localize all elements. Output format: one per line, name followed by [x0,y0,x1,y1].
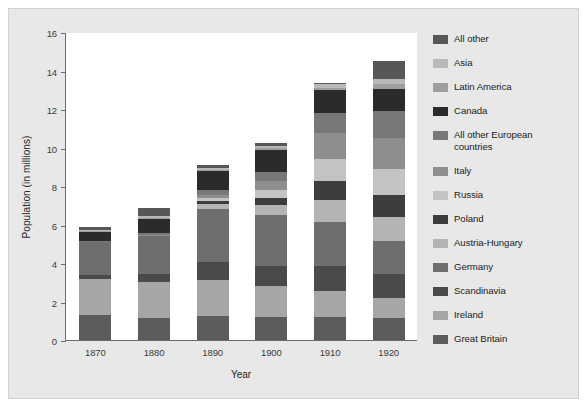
legend-swatch-icon [433,311,448,320]
bar-segment [373,111,405,137]
legend-item[interactable]: Ireland [433,309,573,321]
bar-segment [79,232,111,241]
y-axis-tick-label: 12 [47,105,57,116]
legend-label: All other [454,33,489,45]
legend-item[interactable]: All other European countries [433,129,573,152]
legend-item[interactable]: Asia [433,57,573,69]
plot-area: 0246810121416187018801890190019101920 [65,33,417,341]
x-axis-label: Year [65,369,417,380]
legend-label: Great Britain [454,333,507,345]
bar-segment [138,236,170,274]
y-axis-tick [61,149,66,150]
bar-1900[interactable] [255,143,287,340]
bar-segment [373,217,405,241]
bar-segment [373,318,405,340]
bar-segment [314,317,346,340]
legend-swatch-icon [433,287,448,296]
bar-segment [79,315,111,340]
bar-segment [373,274,405,298]
legend-label: Russia [454,189,483,201]
y-axis-tick-label: 2 [52,297,57,308]
bar-segment [138,318,170,340]
bar-segment [255,181,287,190]
bar-segment [373,298,405,318]
bar-segment [314,133,346,159]
bar-1880[interactable] [138,208,170,340]
legend-swatch-icon [433,239,448,248]
bar-segment [373,61,405,79]
legend-item[interactable]: Latin America [433,81,573,93]
bar-segment [197,171,229,190]
bar-segment [314,200,346,223]
bar-segment [138,219,170,233]
bar-segment [79,279,111,315]
bar-segment [255,198,287,206]
legend-item[interactable]: Russia [433,189,573,201]
bar-1920[interactable] [373,61,405,340]
legend-item[interactable]: All other [433,33,573,45]
legend-swatch-icon [433,263,448,272]
legend-swatch-icon [433,107,448,116]
bar-segment [197,262,229,280]
x-axis-tick-label: 1870 [85,347,106,358]
y-axis-tick-label: 4 [52,259,57,270]
bar-segment [255,172,287,180]
y-axis-tick [61,264,66,265]
legend-label: Germany [454,261,493,273]
chart-figure: Population (in millions) 024681012141618… [8,8,579,399]
legend-label: Asia [454,57,472,69]
bar-segment [255,215,287,266]
y-axis-tick [61,72,66,73]
legend-item[interactable]: Italy [433,165,573,177]
bar-segment [314,113,346,133]
bar-segment [197,280,229,316]
x-axis-tick-label: 1890 [202,347,223,358]
bar-1870[interactable] [79,227,111,340]
bar-1890[interactable] [197,165,229,340]
legend-item[interactable]: Germany [433,261,573,273]
legend-swatch-icon [433,35,448,44]
legend-swatch-icon [433,59,448,68]
y-axis-tick-label: 6 [52,220,57,231]
y-axis-tick-label: 14 [47,66,57,77]
bar-segment [255,190,287,198]
y-axis-tick-label: 10 [47,143,57,154]
legend-label: Italy [454,165,471,177]
legend-swatch-icon [433,167,448,176]
bar-segment [197,209,229,263]
legend-label: Austria-Hungary [454,237,523,249]
bar-segment [373,138,405,169]
y-axis-tick [61,110,66,111]
bar-segment [373,169,405,196]
bar-segment [138,274,170,282]
bar-segment [79,242,111,275]
x-axis-tick-label: 1900 [261,347,282,358]
bar-segment [255,205,287,214]
y-axis-label: Population (in millions) [21,33,35,341]
bar-segment [314,266,346,290]
bar-segment [314,291,346,317]
bar-segment [197,316,229,340]
legend-item[interactable]: Poland [433,213,573,225]
y-axis-tick-label: 0 [52,336,57,347]
y-axis-tick [61,187,66,188]
legend-label: Poland [454,213,484,225]
legend-label: Canada [454,105,487,117]
y-axis-tick-label: 16 [47,28,57,39]
bar-segment [373,241,405,274]
y-axis-tick-label: 8 [52,182,57,193]
bar-segment [373,195,405,217]
legend-swatch-icon [433,131,448,140]
bar-1910[interactable] [314,83,346,340]
legend-item[interactable]: Canada [433,105,573,117]
legend-item[interactable]: Austria-Hungary [433,237,573,249]
legend-item[interactable]: Great Britain [433,333,573,345]
legend-label: Latin America [454,81,511,93]
legend-item[interactable]: Scandinavia [433,285,573,297]
legend-swatch-icon [433,83,448,92]
bar-segment [255,150,287,173]
bar-segment [255,286,287,317]
y-axis-tick [61,33,66,34]
bar-segment [314,181,346,199]
bar-segment [255,317,287,340]
